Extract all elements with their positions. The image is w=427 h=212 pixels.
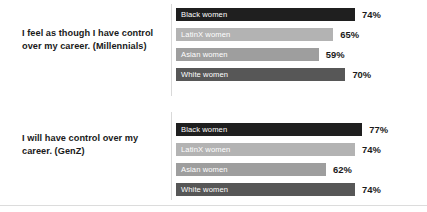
bar: White women: [176, 68, 345, 81]
bar-row: Asian women59%: [176, 48, 427, 61]
bar-category-label: White women: [181, 183, 228, 196]
bar: LatinX women: [176, 28, 333, 41]
bar: LatinX women: [176, 143, 355, 156]
bar-row: White women70%: [176, 68, 427, 81]
bar-row: Asian women62%: [176, 163, 427, 176]
bar-value-label: 65%: [340, 28, 359, 41]
bar-row: Black women74%: [176, 8, 427, 21]
bar-value-label: 77%: [369, 123, 388, 136]
bar-value-label: 74%: [362, 183, 381, 196]
panel-divider: [171, 4, 172, 96]
bar-category-label: Black women: [181, 123, 227, 136]
panel-divider: [171, 112, 172, 200]
bar: Asian women: [176, 163, 326, 176]
panel-question-genz: I will have control over my career. (Gen…: [22, 132, 162, 157]
bar-row: LatinX women74%: [176, 143, 427, 156]
bar-category-label: Black women: [181, 8, 227, 21]
bar-category-label: Asian women: [181, 48, 228, 61]
bar-row: LatinX women65%: [176, 28, 427, 41]
bar-category-label: Asian women: [181, 163, 228, 176]
bar-category-label: White women: [181, 68, 228, 81]
bar-value-label: 74%: [362, 143, 381, 156]
bar: Asian women: [176, 48, 319, 61]
bar-value-label: 74%: [362, 8, 381, 21]
bar-category-label: LatinX women: [181, 28, 230, 41]
bar-plot-genz: Black women77%LatinX women74%Asian women…: [176, 110, 427, 202]
bar: Black women: [176, 8, 355, 21]
chart-panel-genz: I will have control over my career. (Gen…: [0, 110, 427, 202]
bar-plot-millennials: Black women74%LatinX women65%Asian women…: [176, 0, 427, 100]
bar-value-label: 70%: [352, 68, 371, 81]
footer-divider: [0, 205, 427, 206]
chart-root: I feel as though I have control over my …: [0, 0, 427, 212]
bar-category-label: LatinX women: [181, 143, 230, 156]
panel-question-millennials: I feel as though I have control over my …: [22, 27, 162, 52]
chart-panel-millennials: I feel as though I have control over my …: [0, 0, 427, 100]
bar-value-label: 62%: [333, 163, 352, 176]
bar-row: Black women77%: [176, 123, 427, 136]
bar: Black women: [176, 123, 362, 136]
bar-row: White women74%: [176, 183, 427, 196]
bar: White women: [176, 183, 355, 196]
bar-value-label: 59%: [326, 48, 345, 61]
